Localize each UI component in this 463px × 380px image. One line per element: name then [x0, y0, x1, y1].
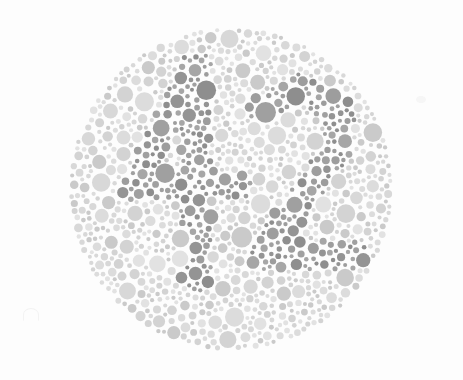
scan-smudge-lower-left-icon: [23, 308, 39, 321]
ishihara-plate-figure: Ishihara color vision test plate 42 Circ…: [0, 0, 463, 380]
scan-smudge-upper-right-icon: [416, 96, 426, 103]
ishihara-dot-plate: [0, 0, 463, 380]
